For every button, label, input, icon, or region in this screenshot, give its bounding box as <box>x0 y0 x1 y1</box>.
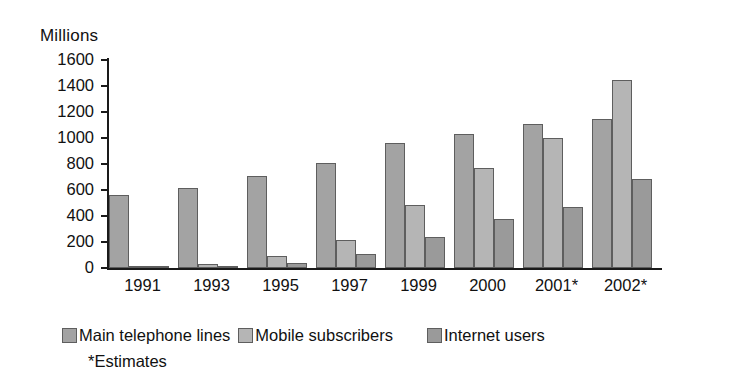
bar <box>523 124 543 268</box>
y-axis-tick-mark <box>101 189 108 191</box>
y-axis-tick-label: 400 <box>66 206 94 225</box>
bar <box>385 143 405 268</box>
y-axis-tick-mark <box>101 111 108 113</box>
bar-group <box>523 60 583 268</box>
legend-item-label: Main telephone lines <box>79 326 230 345</box>
bar <box>267 256 287 268</box>
bar <box>198 264 218 268</box>
y-axis-tick-label: 0 <box>85 258 94 277</box>
legend-item-mobile-subscribers: Mobile subscribers <box>238 326 393 345</box>
bar-group <box>178 60 238 268</box>
y-axis-tick-label: 800 <box>66 154 94 173</box>
bar <box>405 205 425 268</box>
x-axis-tick-label: 1993 <box>177 276 246 295</box>
bar-group <box>316 60 376 268</box>
legend-item-label: Internet users <box>444 326 545 345</box>
bar <box>425 237 445 268</box>
bar-group <box>247 60 307 268</box>
bar <box>149 266 169 268</box>
chart-legend: Main telephone lines Mobile subscribers … <box>62 326 545 345</box>
bar <box>474 168 494 268</box>
y-axis-tick-mark <box>101 137 108 139</box>
y-axis-tick-mark <box>101 163 108 165</box>
x-axis-tick-label: 1997 <box>315 276 384 295</box>
bar-group <box>454 60 514 268</box>
y-axis-tick-label: 600 <box>66 180 94 199</box>
y-axis-tick-mark <box>101 85 108 87</box>
x-axis-tick-label: 1991 <box>108 276 177 295</box>
y-axis-tick-label: 1400 <box>57 76 94 95</box>
bar <box>563 207 583 268</box>
plot-area <box>108 60 660 268</box>
bar-chart-figure: Millions 16001400120010008006004002000 1… <box>0 0 752 385</box>
bar <box>592 119 612 269</box>
bar <box>543 138 563 268</box>
legend-swatch-icon <box>427 328 442 343</box>
y-axis-tick-label: 1000 <box>57 128 94 147</box>
bar <box>632 179 652 268</box>
bar <box>336 240 356 268</box>
bar-group <box>385 60 445 268</box>
y-axis-tick-mark <box>101 267 108 269</box>
x-axis-tick-label: 1999 <box>384 276 453 295</box>
y-axis-tick-label: 200 <box>66 232 94 251</box>
bar <box>178 188 198 268</box>
y-axis-tick-label: 1600 <box>57 50 94 69</box>
x-axis-tick-label: 1995 <box>246 276 315 295</box>
bar <box>287 263 307 268</box>
bar <box>316 163 336 268</box>
y-axis-tick-mark <box>101 59 108 61</box>
x-axis-tick-label: 2002* <box>591 276 660 295</box>
bar <box>218 266 238 268</box>
y-axis-tick-mark <box>101 241 108 243</box>
bar <box>109 195 129 268</box>
bar-group <box>592 60 652 268</box>
bar <box>494 219 514 268</box>
legend-swatch-icon <box>238 328 253 343</box>
legend-swatch-icon <box>62 328 77 343</box>
x-axis-tick-label: 2000 <box>453 276 522 295</box>
bar <box>247 176 267 268</box>
bar <box>612 80 632 269</box>
y-axis-unit-label: Millions <box>40 26 98 46</box>
bar <box>454 134 474 268</box>
bar <box>356 254 376 268</box>
bar <box>129 266 149 268</box>
y-axis-tick-mark <box>101 215 108 217</box>
x-axis-line <box>107 268 662 270</box>
estimates-footnote: *Estimates <box>88 352 167 371</box>
y-axis-tick-label: 1200 <box>57 102 94 121</box>
x-axis-tick-label: 2001* <box>522 276 591 295</box>
legend-item-main-telephone-lines: Main telephone lines <box>62 326 230 345</box>
legend-item-internet-users: Internet users <box>427 326 545 345</box>
bar-group <box>109 60 169 268</box>
legend-item-label: Mobile subscribers <box>255 326 393 345</box>
